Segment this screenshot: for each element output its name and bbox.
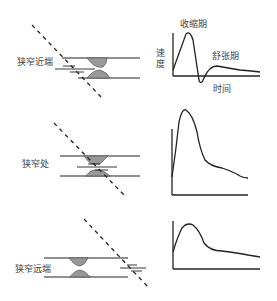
ultrasound-beam	[54, 123, 125, 196]
stenosis-doppler-diagram: 狭窄近端 收缩期 舒张期 速 度 时间 狭窄处	[0, 0, 277, 301]
plaque-top	[87, 58, 107, 67]
waveform-distal	[173, 224, 260, 257]
annotation-velocity-char2: 度	[156, 58, 165, 69]
plaque-top	[69, 258, 88, 266]
label-proximal: 狭窄近端	[17, 56, 53, 67]
panel-distal: 狭窄远端	[15, 219, 260, 287]
panel-stenosis: 狭窄处	[22, 110, 248, 196]
sample-volume-gate	[120, 265, 146, 271]
panel-proximal: 狭窄近端 收缩期 舒张期 速 度 时间	[17, 18, 260, 97]
label-stenosis: 狭窄处	[22, 158, 49, 169]
plaque-top	[84, 156, 108, 164]
annotation-diastole: 舒张期	[212, 50, 239, 61]
waveform-stenosis	[172, 110, 248, 178]
annotation-systole: 收缩期	[180, 18, 207, 29]
plaque-bottom	[70, 270, 90, 277]
label-distal: 狭窄远端	[15, 263, 51, 274]
sample-volume-gate	[55, 66, 95, 72]
plaque-bottom	[87, 70, 110, 78]
plaque-bottom	[86, 170, 110, 176]
sample-volume-gate	[77, 164, 117, 170]
annotation-time: 时间	[213, 83, 231, 94]
annotation-velocity-char1: 速	[156, 48, 165, 58]
